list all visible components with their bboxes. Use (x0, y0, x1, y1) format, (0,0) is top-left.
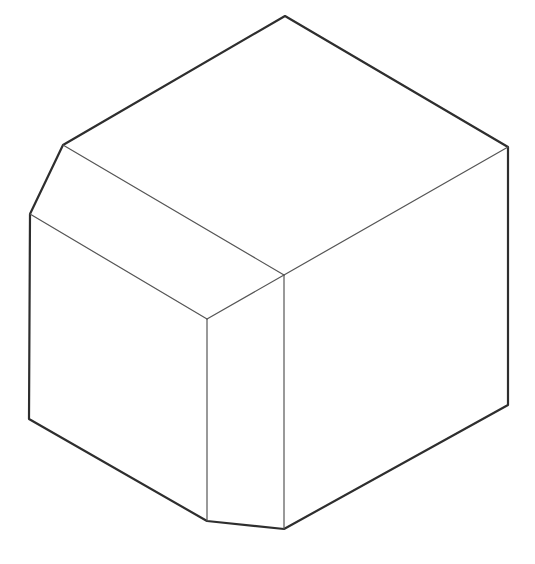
edge-CJ (30, 214, 207, 319)
edge-JI (207, 275, 284, 319)
cube-silhouette-outline (29, 16, 508, 529)
chamfered-cube-drawing (0, 0, 535, 564)
edge-IH (284, 147, 508, 275)
edge-BI (63, 145, 284, 275)
cube-inner-edges (30, 145, 508, 529)
